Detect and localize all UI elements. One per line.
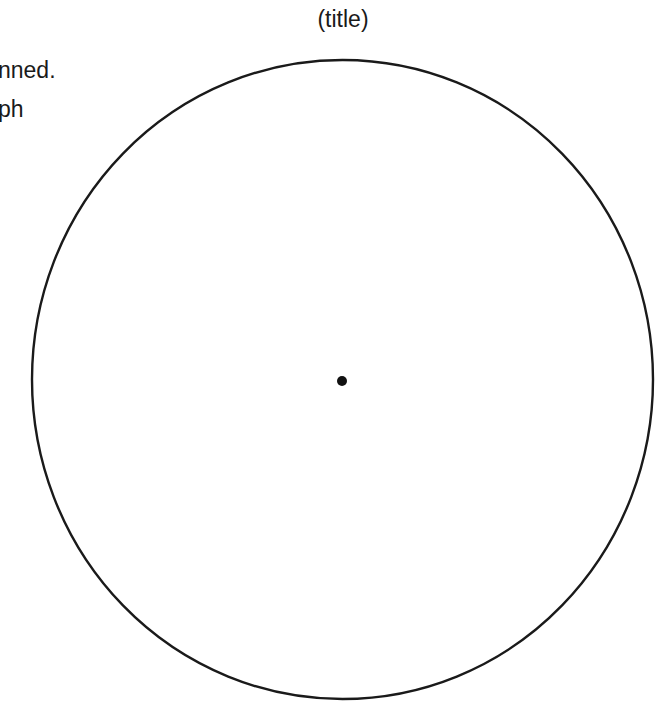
center-point (337, 376, 347, 386)
circle-diagram (0, 0, 662, 702)
